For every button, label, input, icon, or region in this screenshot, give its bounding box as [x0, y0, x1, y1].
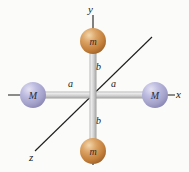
distance-label-a-left: a — [68, 79, 73, 89]
mass-label-m-bottom: m — [81, 147, 105, 157]
mass-label-M-left: M — [21, 91, 45, 101]
distance-label-b-top: b — [96, 62, 101, 72]
rod-vertical — [90, 41, 97, 151]
mass-label-m-top: m — [81, 37, 105, 47]
distance-label-b-bottom: b — [96, 116, 101, 126]
mass-label-M-right: M — [143, 91, 167, 101]
distance-label-a-right: a — [111, 79, 116, 89]
x-axis-label: x — [176, 89, 181, 100]
y-axis-label: y — [88, 4, 93, 15]
physics-diagram: y x z b b a a m m M M — [0, 0, 189, 172]
z-axis-label: z — [29, 152, 33, 163]
